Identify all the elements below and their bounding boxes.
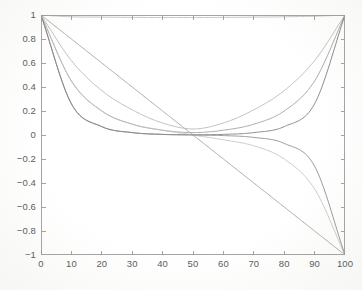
y-tick-label: 0.2 [22, 106, 36, 115]
plot-area [41, 15, 345, 255]
chart-figure: 10.80.60.40.20−0.2−0.4−0.6−0.8−1 0102030… [0, 0, 362, 290]
y-tick-label: 0 [31, 130, 36, 139]
y-tick-label: −0.2 [17, 154, 36, 163]
y-tick-label: 0.6 [22, 58, 36, 67]
y-tick-label: −0.6 [17, 202, 36, 211]
y-tick-label: −0.8 [17, 226, 36, 235]
y-tick-label: 1 [31, 10, 36, 19]
plot-svg [41, 15, 345, 255]
chart-series-u-medium [41, 15, 345, 133]
curves-layer [41, 15, 345, 255]
chart-series-u-shallow [41, 15, 345, 129]
y-tick-label: 0.8 [22, 34, 36, 43]
y-axis-tick-labels: 10.80.60.40.20−0.2−0.4−0.6−0.8−1 [0, 0, 36, 290]
y-tick-label: −1 [25, 250, 36, 259]
y-tick-label: 0.4 [22, 82, 36, 91]
chart-series-u-steep [41, 15, 345, 135]
x-tick-label: 100 [325, 259, 362, 268]
x-axis-tick-labels: 0102030405060708090100 [0, 259, 362, 279]
y-tick-label: −0.4 [17, 178, 36, 187]
